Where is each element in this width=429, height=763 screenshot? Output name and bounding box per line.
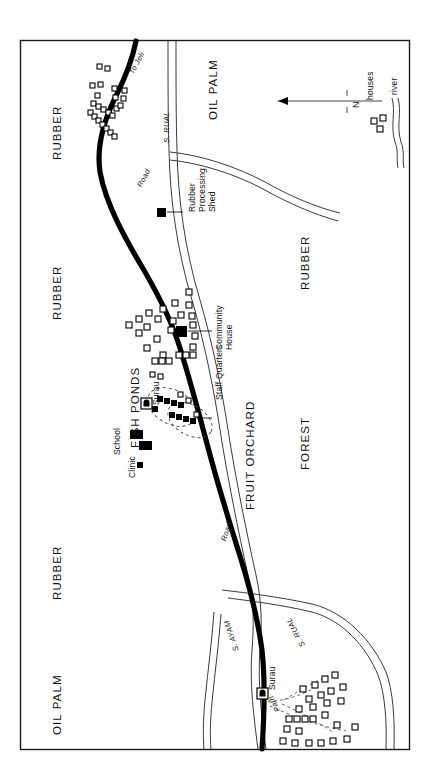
- building-school: [130, 430, 143, 439]
- building-community-house: [176, 326, 187, 337]
- map-canvas: [0, 0, 429, 763]
- village-plantation-map: RUBBER RUBBER RUBBER RUBBER OIL PALM OIL…: [0, 0, 429, 763]
- map-frame: [21, 41, 410, 750]
- building-school-annex: [139, 441, 152, 450]
- building-clinic: [137, 462, 143, 468]
- building-rubber-processing-shed: [157, 208, 166, 217]
- surau-icon-north: [141, 398, 152, 409]
- surau-icon-south: [257, 688, 268, 699]
